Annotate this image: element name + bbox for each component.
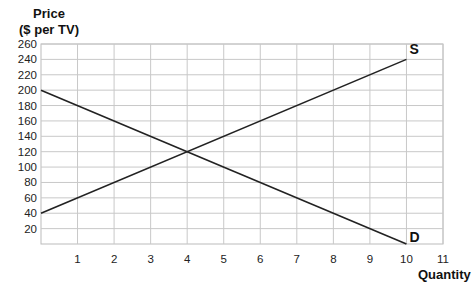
y-tick-label: 60 [24, 192, 37, 204]
x-tick-label: 7 [294, 253, 300, 265]
y-tick-label: 180 [18, 100, 37, 112]
x-tick-label: 9 [367, 253, 373, 265]
x-tick-label: 1 [74, 253, 80, 265]
x-tick-label: 6 [257, 253, 263, 265]
y-tick-label: 160 [18, 115, 37, 127]
y-axis-ticks: 20406080100120140160180200220240260 [18, 38, 37, 235]
x-tick-label: 8 [330, 253, 336, 265]
curve-label-s: S [409, 41, 418, 57]
x-tick-label: 2 [111, 253, 117, 265]
x-tick-label: 10 [400, 253, 413, 265]
x-tick-label: 4 [184, 253, 191, 265]
y-tick-label: 220 [18, 69, 37, 81]
y-tick-label: 120 [18, 146, 37, 158]
y-tick-label: 260 [18, 38, 37, 50]
y-tick-label: 100 [18, 161, 37, 173]
series-lines: SD [41, 41, 420, 245]
y-tick-label: 140 [18, 130, 37, 142]
supply-demand-chart: 20406080100120140160180200220240260 1234… [0, 0, 475, 295]
curve-label-d: D [409, 229, 419, 245]
grid [41, 44, 443, 244]
y-tick-label: 240 [18, 53, 37, 65]
plot-frame [41, 44, 443, 244]
x-tick-label: 5 [221, 253, 227, 265]
x-tick-label: 3 [147, 253, 153, 265]
y-tick-label: 40 [24, 207, 37, 219]
x-axis-ticks: 1234567891011 [74, 253, 449, 265]
y-tick-label: 80 [24, 176, 37, 188]
y-tick-label: 200 [18, 84, 37, 96]
y-tick-label: 20 [24, 223, 37, 235]
x-tick-label: 11 [437, 253, 449, 265]
